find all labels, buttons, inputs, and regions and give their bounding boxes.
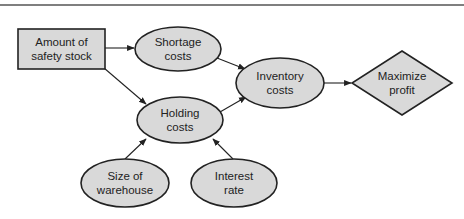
node-interest-label-line-2: rate (224, 184, 244, 196)
arrow-interest-to-holding (213, 139, 233, 159)
decision-rectangle (18, 29, 105, 69)
chance-ellipse (135, 27, 221, 71)
node-profit-label-line-1: Maximize (378, 70, 427, 82)
node-interest: Interestrate (191, 159, 277, 207)
chance-ellipse (81, 159, 169, 207)
chance-ellipse (236, 58, 324, 108)
arrow-safety-stock-to-holding (104, 68, 146, 104)
node-inventory-label-line-2: costs (267, 84, 294, 96)
node-interest-label-line-1: Interest (215, 170, 254, 182)
influence-diagram: Amount ofsafety stockShortagecostsHoldin… (0, 0, 464, 219)
node-inventory-label-line-1: Inventory (256, 70, 304, 82)
nodes-layer: Amount ofsafety stockShortagecostsHoldin… (18, 27, 452, 207)
node-warehouse-label-line-2: warehouse (96, 184, 153, 196)
objective-diamond (352, 51, 452, 115)
chance-ellipse (191, 159, 277, 207)
node-profit-label-line-2: profit (389, 84, 415, 96)
node-inventory: Inventorycosts (236, 58, 324, 108)
edges-layer (104, 48, 351, 159)
node-holding: Holdingcosts (137, 97, 223, 143)
node-holding-label-line-2: costs (167, 121, 194, 133)
arrow-warehouse-to-holding (125, 139, 146, 159)
node-shortage-label-line-2: costs (165, 50, 192, 62)
node-shortage: Shortagecosts (135, 27, 221, 71)
arrow-holding-to-inventory (220, 97, 246, 112)
node-warehouse: Size ofwarehouse (81, 159, 169, 207)
arrow-shortage-to-inventory (217, 58, 245, 69)
node-safety-stock-label-line-2: safety stock (31, 50, 92, 62)
node-warehouse-label-line-1: Size of (107, 170, 143, 182)
chance-ellipse (137, 97, 223, 143)
node-shortage-label-line-1: Shortage (155, 36, 202, 48)
node-profit: Maximizeprofit (352, 51, 452, 115)
node-safety-stock-label-line-1: Amount of (35, 36, 88, 48)
node-safety-stock: Amount ofsafety stock (18, 29, 105, 69)
node-holding-label-line-1: Holding (161, 107, 200, 119)
